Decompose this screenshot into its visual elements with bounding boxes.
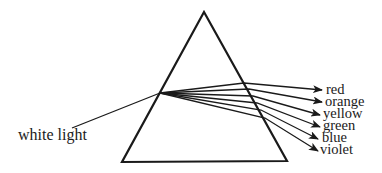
white-light-label: white light — [18, 126, 87, 144]
prism — [122, 12, 287, 162]
incident-ray — [72, 93, 160, 128]
label-violet: violet — [320, 141, 353, 157]
ray-blue — [160, 93, 318, 139]
dispersed-rays — [160, 83, 322, 151]
color-labels: redorangeyellowgreenblueviolet — [320, 81, 364, 157]
prism-dispersion-diagram: white light redorangeyellowgreenblueviol… — [0, 0, 382, 173]
